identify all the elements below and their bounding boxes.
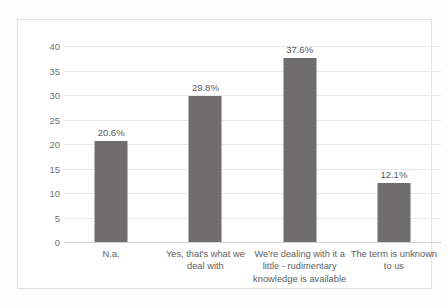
y-axis-tick-label: 30 (26, 90, 60, 101)
y-axis-tick-label: 0 (26, 237, 60, 248)
bar[interactable] (377, 183, 410, 242)
y-axis-tick-label: 35 (26, 65, 60, 76)
bar-data-label: 37.6% (286, 44, 313, 55)
bar-slot: 20.6% (64, 46, 158, 242)
bar-data-label: 12.1% (380, 169, 407, 180)
y-axis-tick-label: 5 (26, 212, 60, 223)
y-axis-tick-label: 15 (26, 163, 60, 174)
y-axis-tick-label: 25 (26, 114, 60, 125)
bar-data-label: 29.8% (192, 82, 219, 93)
y-axis-tick-label: 10 (26, 188, 60, 199)
x-axis-category-labels: N.a.Yes, that's what we deal withWe're d… (64, 248, 441, 306)
bar-slot: 37.6% (253, 46, 347, 242)
plot-area: 20.6%29.8%37.6%12.1% (64, 46, 441, 242)
bar[interactable] (189, 96, 222, 242)
bar[interactable] (95, 141, 128, 242)
y-axis: 0510152025303540 (22, 46, 60, 242)
bar-slot: 29.8% (158, 46, 252, 242)
x-axis-category-label: The term is unknown to us (347, 248, 441, 273)
bar-slot: 12.1% (347, 46, 441, 242)
x-axis-category-label: Yes, that's what we deal with (158, 248, 252, 273)
chart-frame: 0510152025303540 20.6%29.8%37.6%12.1% N.… (17, 19, 432, 289)
gridline (64, 242, 441, 243)
x-axis-category-label: We're dealing with it a little - rudimen… (253, 248, 347, 285)
y-axis-tick-label: 40 (26, 41, 60, 52)
y-axis-tick-label: 20 (26, 139, 60, 150)
bar-chart: 0510152025303540 20.6%29.8%37.6%12.1% N.… (0, 0, 448, 308)
x-axis-category-label: N.a. (64, 248, 158, 260)
bar-data-label: 20.6% (98, 127, 125, 138)
bar[interactable] (283, 58, 316, 242)
